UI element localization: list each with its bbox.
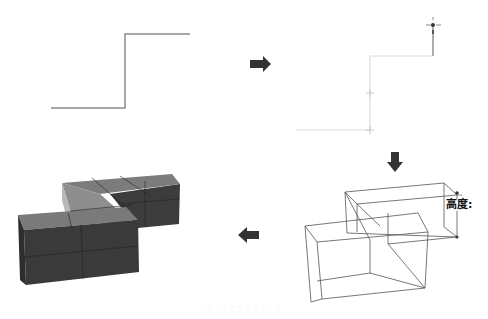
arrow-left-icon (238, 227, 259, 243)
arrow-right-icon (250, 56, 271, 72)
move-cursor-icon (426, 17, 441, 34)
height-label: 高度: (445, 199, 473, 211)
step-line-profile (51, 34, 190, 108)
workflow-diagram (0, 0, 488, 319)
vertex-marker (366, 126, 374, 134)
vertex-marker (366, 89, 374, 97)
move-cursor-icon (455, 191, 459, 195)
step-solid-mesh (18, 174, 180, 285)
step-wireframe (305, 183, 462, 302)
step-extrude-height (296, 17, 441, 134)
caption: · · · · · · · · · · · (200, 302, 400, 316)
arrow-down-icon (387, 152, 403, 172)
